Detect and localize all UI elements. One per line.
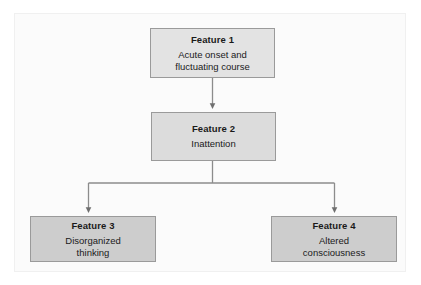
node-feature-2-description: Inattention (191, 138, 235, 151)
node-feature-3: Feature 3 Disorganized thinking (30, 216, 156, 262)
node-feature-2: Feature 2 Inattention (151, 112, 276, 161)
node-feature-1: Feature 1 Acute onset and fluctuating co… (150, 28, 275, 78)
node-feature-1-title: Feature 1 (191, 33, 234, 46)
node-feature-1-description: Acute onset and fluctuating course (175, 49, 249, 74)
node-feature-3-title: Feature 3 (71, 219, 114, 232)
node-feature-2-title: Feature 2 (192, 122, 235, 135)
node-feature-4-title: Feature 4 (312, 219, 355, 232)
node-feature-4: Feature 4 Altered consciousness (271, 216, 397, 262)
node-feature-3-description: Disorganized thinking (65, 235, 120, 260)
node-feature-4-description: Altered consciousness (303, 235, 365, 260)
flowchart-diagram: Feature 1 Acute onset and fluctuating co… (0, 0, 421, 285)
